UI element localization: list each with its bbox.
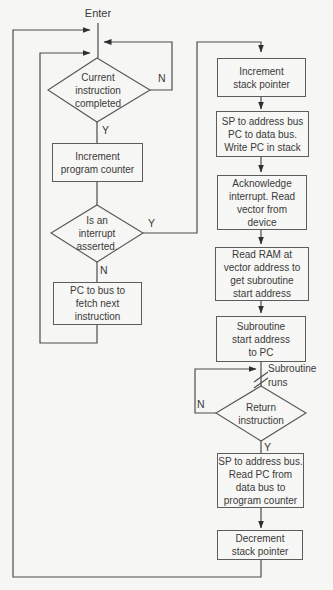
process-decrement-sp: Decrement stack pointer (217, 530, 303, 560)
annotation-subroutine-runs: Subroutine runs (268, 362, 316, 390)
process-pop-pc: SP to address bus. Read PC from data bus… (217, 453, 304, 508)
process-fetch-next: PC to bus to fetch next instruction (53, 282, 142, 325)
branch-label-return-yes: Y (264, 440, 271, 454)
decision-interrupt-asserted: Is an interrupt asserted. (50, 214, 144, 253)
flowchart-canvas: Enter Current instruction completed Is a… (0, 0, 333, 590)
branch-label-current-no: N (158, 71, 166, 85)
branch-label-interrupt-yes: Y (148, 216, 155, 230)
entry-label: Enter (79, 6, 117, 20)
process-push-pc: SP to address bus PC to data bus. Write … (216, 111, 309, 157)
process-increment-sp: Increment stack pointer (217, 58, 306, 97)
branch-label-interrupt-no: N (100, 263, 108, 277)
process-ack-interrupt: Acknowledge interrupt. Read vector from … (217, 175, 307, 230)
branch-label-return-no: N (197, 397, 205, 411)
decision-return-instruction: Return instruction (216, 400, 306, 427)
branch-label-current-yes: Y (102, 123, 109, 137)
decision-current-instruction: Current instruction completed (48, 70, 148, 110)
process-increment-pc: Increment program counter (52, 143, 143, 182)
process-subroutine-start: Subroutine start address to PC (216, 316, 306, 362)
process-read-ram: Read RAM at vector address to get subrou… (215, 247, 309, 301)
